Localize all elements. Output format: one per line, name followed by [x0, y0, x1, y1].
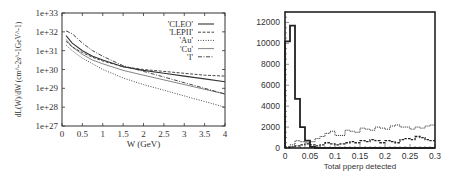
y-tick-label: 0 [275, 143, 280, 153]
pperp-histogram: 02000400060008000100001200000.050.10.150… [256, 12, 441, 171]
x-tick-label: 0 [60, 129, 65, 139]
y-tick-label: 1e+28 [35, 102, 58, 112]
y-tick-label: 1e+33 [35, 8, 58, 18]
series-line-cu [66, 39, 225, 94]
luminosity-line-chart: 00.511.522.533.541e+271e+281e+291e+301e+… [14, 8, 228, 149]
x-tick-label: 0.15 [352, 151, 369, 161]
y-tick-label: 8000 [261, 59, 280, 69]
plot-frame [285, 12, 435, 148]
x-tick-label: 2.5 [158, 129, 170, 139]
x-tick-label: 0.5 [77, 129, 89, 139]
y-tick-label: 1e+30 [35, 65, 58, 75]
x-tick-label: 4 [223, 129, 228, 139]
y-tick-label: 1e+31 [35, 46, 58, 56]
x-tick-label: 0.05 [302, 151, 319, 161]
x-tick-label: 3.5 [199, 129, 211, 139]
y-tick-label: 6000 [261, 80, 280, 90]
y-tick-label: 1e+27 [35, 121, 58, 131]
x-tick-label: 3 [182, 129, 187, 139]
y-tick-label: 1e+32 [35, 27, 58, 37]
y-tick-label: 4000 [261, 101, 280, 111]
x-tick-label: 0.3 [429, 151, 441, 161]
y-tick-label: 2000 [261, 122, 280, 132]
y-axis-label: dL(W)/dW (cm^-2s^-1GeV^-1) [14, 21, 23, 117]
x-axis-label: Total pperp detected [324, 162, 397, 171]
figure: 00.511.522.533.541e+271e+281e+291e+301e+… [0, 0, 453, 179]
x-axis-label: W (GeV) [127, 139, 161, 149]
y-tick-label: 10000 [256, 38, 280, 48]
x-tick-label: 1 [101, 129, 106, 139]
x-tick-label: 2 [141, 129, 146, 139]
legend-label: 'I' [187, 52, 193, 62]
x-tick-label: 0.2 [379, 151, 391, 161]
x-tick-label: 0.25 [402, 151, 419, 161]
x-tick-label: 0.1 [329, 151, 341, 161]
y-tick-label: 12000 [256, 17, 280, 27]
y-tick-label: 1e+29 [35, 83, 58, 93]
x-tick-label: 1.5 [118, 129, 130, 139]
x-tick-label: 0 [283, 151, 288, 161]
